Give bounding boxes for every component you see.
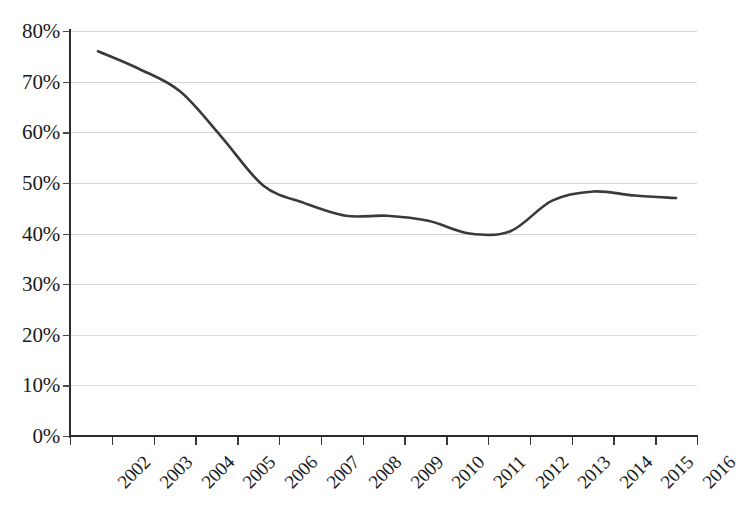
x-tick-11 <box>530 437 531 445</box>
x-tick-0 <box>70 437 71 445</box>
gridline-30 <box>70 284 697 285</box>
x-axis-label-2006: 2006 <box>281 452 321 492</box>
x-tick-12 <box>572 437 573 445</box>
x-tick-8 <box>404 437 405 445</box>
y-axis-label-30: 30% <box>22 274 60 295</box>
y-axis-label-60: 60% <box>22 122 60 143</box>
y-tick-80 <box>63 31 70 32</box>
gridline-70 <box>70 82 697 83</box>
x-tick-5 <box>279 437 280 445</box>
y-axis-label-40: 40% <box>22 224 60 245</box>
x-axis-labels: 2002 2003 2004 2005 2006 2007 2008 2009 … <box>0 452 719 512</box>
x-tick-6 <box>321 437 322 445</box>
x-axis-label-2011: 2011 <box>490 452 529 491</box>
x-tick-13 <box>613 437 614 445</box>
y-axis-labels: 80% 70% 60% 50% 40% 30% 20% 10% 0% <box>0 0 60 512</box>
x-axis-label-2002: 2002 <box>114 452 154 492</box>
x-axis-label-2003: 2003 <box>156 452 196 492</box>
gridline-40 <box>70 234 697 235</box>
y-tick-50 <box>63 183 70 184</box>
x-axis-label-2007: 2007 <box>323 452 363 492</box>
y-tick-30 <box>63 284 70 285</box>
y-tick-40 <box>63 234 70 235</box>
y-axis-label-10: 10% <box>22 375 60 396</box>
x-tick-3 <box>195 437 196 445</box>
gridline-80 <box>70 31 697 32</box>
x-axis-label-2004: 2004 <box>197 452 237 492</box>
x-axis-label-2015: 2015 <box>657 452 697 492</box>
y-axis-label-50: 50% <box>22 173 60 194</box>
gridline-20 <box>70 335 697 336</box>
y-axis-label-20: 20% <box>22 325 60 346</box>
plot-area <box>70 31 697 436</box>
x-axis-line <box>69 435 698 437</box>
x-axis-label-2008: 2008 <box>365 452 405 492</box>
x-tick-14 <box>655 437 656 445</box>
y-tick-20 <box>63 335 70 336</box>
x-axis-label-2005: 2005 <box>239 452 279 492</box>
x-tick-10 <box>488 437 489 445</box>
y-tick-10 <box>63 385 70 386</box>
x-axis-label-2013: 2013 <box>574 452 614 492</box>
y-tick-60 <box>63 132 70 133</box>
x-tick-2 <box>154 437 155 445</box>
x-tick-4 <box>237 437 238 445</box>
x-axis-label-2014: 2014 <box>615 452 655 492</box>
y-tick-0 <box>63 436 70 437</box>
x-axis-label-2012: 2012 <box>532 452 572 492</box>
x-tick-1 <box>112 437 113 445</box>
y-axis-label-70: 70% <box>22 72 60 93</box>
x-axis-label-2010: 2010 <box>448 452 488 492</box>
y-axis-label-0: 0% <box>32 426 60 447</box>
gridline-50 <box>70 183 697 184</box>
x-tick-15 <box>697 437 698 445</box>
gridline-10 <box>70 385 697 386</box>
y-axis-label-80: 80% <box>22 21 60 42</box>
x-tick-9 <box>446 437 447 445</box>
x-axis-label-2009: 2009 <box>406 452 446 492</box>
gridline-60 <box>70 132 697 133</box>
x-tick-7 <box>363 437 364 445</box>
x-axis-label-2016: 2016 <box>699 452 739 492</box>
y-tick-70 <box>63 82 70 83</box>
